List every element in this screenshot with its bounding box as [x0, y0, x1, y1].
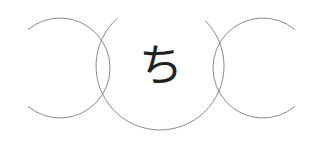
- hiragana-character: ち: [136, 38, 186, 94]
- right-ring: [213, 18, 295, 118]
- left-ring: [28, 18, 110, 118]
- hiragana-card: ち: [0, 0, 314, 142]
